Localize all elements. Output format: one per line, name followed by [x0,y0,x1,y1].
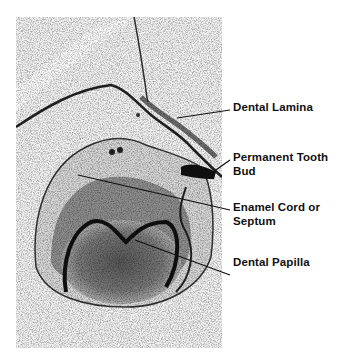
label-dental-lamina: Dental Lamina [233,100,313,114]
micrograph-drawing [16,17,222,348]
micrograph-image [16,17,222,348]
label-permanent-tooth-bud: Permanent Tooth Bud [233,150,337,178]
figure: Dental Lamina Permanent Tooth Bud Enamel… [0,0,337,362]
label-enamel-cord: Enamel Cord or Septum [233,200,337,228]
label-dental-papilla: Dental Papilla [233,255,310,269]
